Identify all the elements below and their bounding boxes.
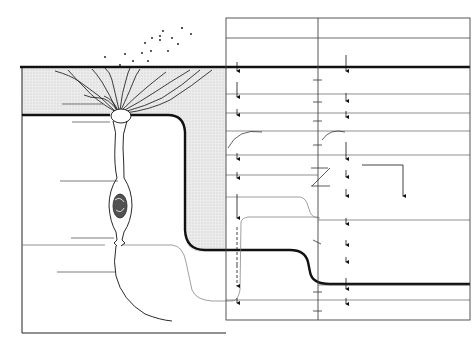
olfactory-neuron [109,109,172,321]
olfactory-transduction-figure [0,0,472,344]
figure-drawing [0,0,472,344]
membrane-boundary-line [22,115,470,284]
odorant-particles [104,27,192,66]
epithelium-region [170,115,226,252]
transduction-table-frame [226,18,470,320]
